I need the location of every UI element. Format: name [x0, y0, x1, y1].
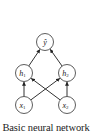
diagram-caption: Basic neural network	[0, 122, 92, 133]
edge-h1-to-y_hat	[29, 49, 40, 66]
edge-h2-to-y_hat	[50, 49, 62, 66]
node-y_hat: ŷ	[37, 34, 54, 51]
node-x2: x2	[59, 97, 76, 114]
node-h1: h1	[16, 65, 33, 82]
node-h2: h2	[59, 65, 76, 82]
nodes: ŷh1h2x1x2	[16, 34, 76, 114]
node-label: ŷ	[42, 38, 47, 47]
node-x1: x1	[16, 97, 33, 114]
neural-network-diagram: ŷh1h2x1x2	[0, 0, 92, 140]
